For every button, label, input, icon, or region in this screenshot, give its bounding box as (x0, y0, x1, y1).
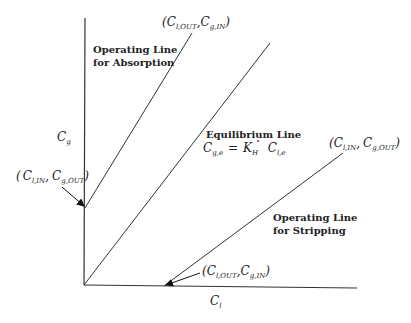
y-axis (84, 18, 85, 285)
x-axis (84, 285, 357, 288)
y-axis-label: Cg (57, 130, 71, 146)
stripping-top-point-label: (Cl,IN,Cg,OUT) (329, 136, 400, 152)
arrow-absorption-bottom (62, 187, 84, 206)
arrow-stripping-bottom (166, 273, 200, 285)
operating-line-diagram: Cg Cl Operating Line for Absorption (Cl,… (0, 0, 411, 323)
x-axis-label: Cl (210, 294, 221, 310)
stripping-label-line2: for Stripping (273, 225, 346, 236)
equilibrium-equation: Cg,e=KH°Cl,e (203, 139, 285, 157)
absorption-bottom-point-label: (Cl,IN,Cg,OUT) (16, 169, 89, 185)
absorption-top-point-label: (Cl,OUT,Cg,IN) (162, 15, 230, 31)
stripping-bottom-point-label: (Cl,OUT,Cg,IN) (202, 264, 270, 280)
absorption-label-line1: Operating Line (93, 44, 177, 55)
equilibrium-label: Equilibrium Line (206, 129, 301, 140)
stripping-label-line1: Operating Line (273, 212, 357, 223)
absorption-label-line2: for Absorption (93, 57, 175, 68)
